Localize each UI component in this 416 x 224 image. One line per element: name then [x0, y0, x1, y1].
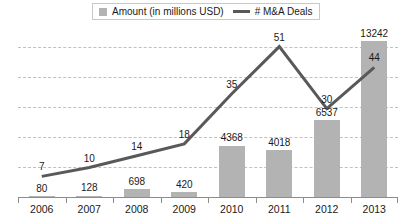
- bar-value-label: 420: [154, 179, 214, 190]
- x-axis-label-2008: 2008: [113, 203, 161, 216]
- bar-value-label: 4018: [249, 137, 309, 148]
- line-value-label: 10: [69, 153, 109, 164]
- legend-item-deals: # M&A Deals: [233, 6, 313, 17]
- x-axis-label-2010: 2010: [208, 203, 256, 216]
- line-value-label: 30: [307, 94, 347, 105]
- line-value-label: 35: [212, 79, 252, 90]
- legend-item-deals-label: # M&A Deals: [255, 6, 313, 17]
- legend-item-amount-label: Amount (in millions USD): [112, 6, 224, 17]
- bar-value-label: 13242: [344, 28, 404, 39]
- legend-line-swatch-icon: [233, 10, 250, 13]
- chart-legend: Amount (in millions USD) # M&A Deals: [92, 3, 320, 20]
- line-value-label: 51: [259, 32, 299, 43]
- line-value-label: 18: [164, 129, 204, 140]
- x-axis-tick-labels: 20062007200820092010201120122013: [18, 203, 398, 219]
- plot-area: 710141835513044 801286984204368401865371…: [18, 26, 398, 197]
- legend-bar-swatch-icon: [99, 8, 107, 16]
- x-axis: [18, 197, 398, 198]
- x-axis-label-2006: 2006: [18, 203, 66, 216]
- x-axis-label-2011: 2011: [256, 203, 304, 216]
- x-axis-label-2012: 2012: [303, 203, 351, 216]
- x-axis-label-2009: 2009: [161, 203, 209, 216]
- chart-container: Amount (in millions USD) # M&A Deals 710…: [0, 0, 416, 224]
- line-value-label: 44: [354, 52, 394, 63]
- line-value-label: 7: [22, 161, 62, 172]
- line-value-label: 14: [117, 141, 157, 152]
- x-axis-label-2007: 2007: [66, 203, 114, 216]
- x-axis-label-2013: 2013: [351, 203, 399, 216]
- legend-item-amount: Amount (in millions USD): [99, 6, 224, 17]
- bar-value-label: 6537: [297, 107, 357, 118]
